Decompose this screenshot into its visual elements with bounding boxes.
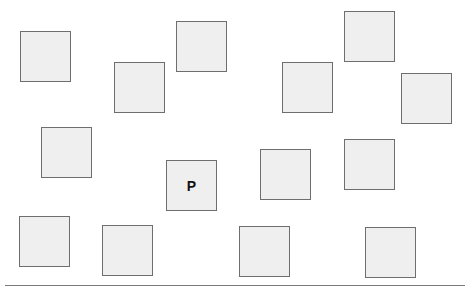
tile[interactable] [344,139,395,190]
ground-line [5,285,465,286]
tile[interactable] [344,11,395,62]
tile[interactable] [102,225,153,276]
tile[interactable] [41,127,92,178]
tile[interactable] [20,31,71,82]
tile[interactable] [239,226,290,277]
tile[interactable] [365,227,416,278]
tile[interactable] [260,149,311,200]
player-tile[interactable]: P [166,160,217,211]
tile[interactable] [114,62,165,113]
tile[interactable] [401,73,452,124]
tile[interactable] [19,216,70,267]
tile[interactable] [282,62,333,113]
tile[interactable] [176,21,227,72]
